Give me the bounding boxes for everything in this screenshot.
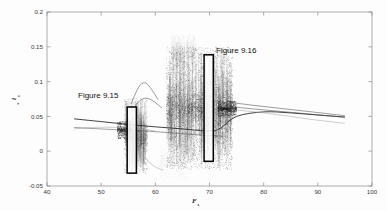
bifurcation-diagram-figure: 405060708090100 -0.0500.050.10.150.2 Fig…	[0, 0, 387, 211]
y-tick-label: 0.1	[34, 78, 43, 85]
x-axis-title-subscript: s	[197, 202, 200, 207]
y-tick-label: 0	[40, 147, 44, 154]
y-axis-title-subscript: s	[16, 95, 21, 98]
x-tick-label: 100	[367, 188, 378, 195]
x-axis-title: F	[192, 197, 197, 205]
annotation-figure-9-16: Figure 9.16	[216, 46, 257, 55]
x-tick-label: 60	[152, 188, 159, 195]
highlight-box-fill	[204, 55, 213, 161]
highlight-box-box916[interactable]	[204, 55, 213, 161]
highlight-box-fill	[127, 107, 136, 173]
highlight-box-box915[interactable]	[127, 107, 136, 173]
x-tick-label: 70	[206, 188, 213, 195]
y-tick-label: -0.05	[29, 182, 44, 189]
x-tick-label: 80	[260, 188, 267, 195]
annotation-figure-9-15: Figure 9.15	[78, 91, 119, 100]
x-tick-label: 40	[44, 188, 51, 195]
y-tick-label: 0.15	[31, 43, 44, 50]
y-axis-title: i	[10, 98, 18, 100]
y-tick-label: 0.05	[31, 113, 44, 120]
y-tick-label: 0.2	[34, 8, 43, 15]
x-tick-label: 90	[314, 188, 321, 195]
plot-canvas: 405060708090100 -0.0500.050.10.150.2 Fig…	[0, 0, 387, 211]
x-tick-label: 50	[98, 188, 105, 195]
